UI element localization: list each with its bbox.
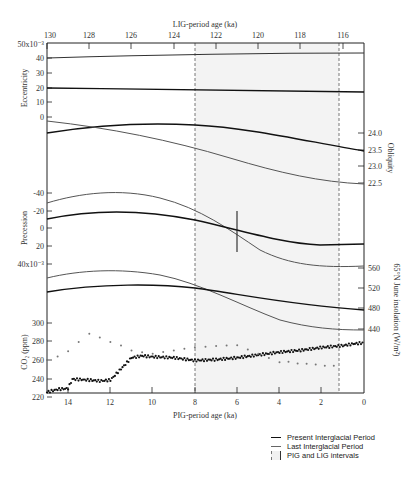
- svg-text:-40: -40: [33, 189, 44, 198]
- legend-item-last: Last Interglacial Period: [271, 442, 375, 451]
- obl-tick-labels: 24.023.5 23.022.5: [368, 129, 382, 188]
- prec-axis-label: Precession: [20, 211, 29, 245]
- svg-text:10: 10: [148, 398, 156, 407]
- svg-text:440: 440: [368, 325, 380, 334]
- legend: Present Interglacial Period Last Intergl…: [271, 433, 375, 460]
- legend-item-interval: PIG and LIG intervals: [271, 451, 375, 460]
- svg-text:30: 30: [36, 69, 44, 78]
- svg-text:12: 12: [106, 398, 114, 407]
- obl-axis-label: Obliquity: [386, 143, 395, 174]
- svg-text:20: 20: [36, 84, 44, 93]
- svg-text:126: 126: [125, 31, 137, 40]
- svg-text:20: 20: [36, 242, 44, 251]
- ecc-axis-label: Eccentricity: [20, 69, 29, 108]
- svg-text:-20: -20: [33, 207, 44, 216]
- svg-text:0: 0: [362, 398, 366, 407]
- svg-text:24.0: 24.0: [368, 129, 382, 138]
- legend-label-last: Last Interglacial Period: [287, 442, 363, 451]
- paleoclimate-chart: 130128 126124 122120 118116 LIG-period a…: [0, 0, 411, 478]
- svg-text:10: 10: [36, 98, 44, 107]
- legend-label-interval: PIG and LIG intervals: [287, 451, 359, 460]
- co2-axis-label: CO₂ (ppm): [20, 334, 29, 370]
- svg-text:4: 4: [277, 398, 281, 407]
- svg-text:520: 520: [368, 284, 380, 293]
- legend-item-present: Present Interglacial Period: [271, 433, 375, 442]
- svg-text:300: 300: [32, 319, 44, 328]
- obl-ticks: [358, 133, 364, 183]
- svg-text:23.0: 23.0: [368, 162, 382, 171]
- svg-text:40: 40: [36, 54, 44, 63]
- svg-text:240: 240: [32, 375, 44, 384]
- svg-text:40x10⁻³: 40x10⁻³: [17, 260, 44, 269]
- interval-swatch: [271, 451, 281, 460]
- svg-text:6: 6: [235, 398, 239, 407]
- top-axis-labels: 130128 126124 122120 118116: [44, 31, 349, 40]
- bottom-axis-labels: 1412 108 64 20: [64, 398, 366, 407]
- prec-ticks: [47, 193, 52, 264]
- svg-text:116: 116: [337, 31, 349, 40]
- svg-text:260: 260: [32, 356, 44, 365]
- present-line-swatch: [271, 437, 281, 438]
- ins-tick-labels: 560520 480440: [368, 264, 380, 334]
- bottom-axis-title: PIG-period age (ka): [173, 411, 237, 420]
- svg-text:128: 128: [83, 31, 95, 40]
- svg-text:0: 0: [40, 113, 44, 122]
- svg-text:14: 14: [64, 398, 72, 407]
- svg-text:118: 118: [294, 31, 306, 40]
- svg-text:280: 280: [32, 337, 44, 346]
- svg-text:120: 120: [252, 31, 264, 40]
- svg-text:8: 8: [193, 398, 197, 407]
- legend-label-present: Present Interglacial Period: [287, 433, 375, 442]
- svg-text:560: 560: [368, 264, 380, 273]
- ecc-top-label: 50x10⁻³: [17, 40, 44, 49]
- interval-shading: [195, 43, 339, 393]
- svg-text:22.5: 22.5: [368, 179, 382, 188]
- svg-text:130: 130: [44, 31, 56, 40]
- svg-text:2: 2: [319, 398, 323, 407]
- svg-text:122: 122: [210, 31, 222, 40]
- top-axis-title: LIG-period age (ka): [173, 20, 238, 29]
- svg-text:23.5: 23.5: [368, 146, 382, 155]
- svg-text:480: 480: [368, 304, 380, 313]
- ecc-tick-labels: 4030 2010 0: [36, 54, 44, 122]
- co2-tick-labels: 300280 260240 220: [32, 319, 44, 402]
- svg-text:124: 124: [168, 31, 180, 40]
- svg-text:220: 220: [32, 393, 44, 402]
- svg-text:0: 0: [40, 224, 44, 233]
- last-line-swatch: [271, 446, 281, 447]
- ins-ticks: [358, 268, 364, 329]
- ins-axis-label: 65°N June insolation (W/m²): [392, 264, 401, 357]
